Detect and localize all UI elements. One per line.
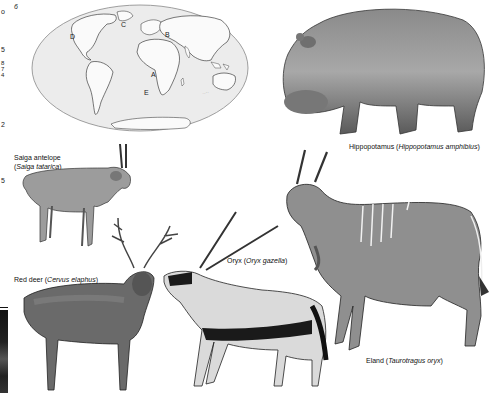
margin-number: 4: [1, 72, 4, 78]
map-label-b: B: [165, 31, 170, 38]
margin-number: o: [1, 8, 5, 15]
margin-number: 5: [1, 177, 5, 184]
eland-caption: Eland (Taurotragus oryx): [366, 357, 443, 364]
red-deer-illustration: [14, 212, 184, 392]
eland-illustration: [275, 146, 490, 366]
map-label-e: E: [144, 89, 149, 96]
margin-number: 2: [1, 121, 5, 128]
map-label-a: A: [151, 71, 156, 78]
hippopotamus-illustration: [278, 2, 488, 142]
photo-fragment: [0, 307, 8, 393]
map-label-d: D: [70, 33, 75, 40]
map-label-c: C: [121, 21, 126, 28]
margin-number: 5: [1, 46, 5, 53]
world-map: D C B A E ~~~~: [15, 2, 265, 137]
